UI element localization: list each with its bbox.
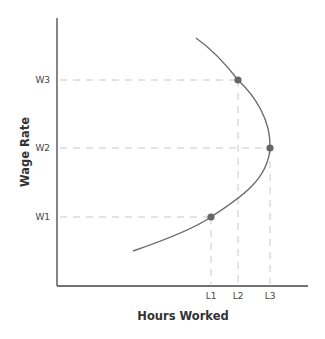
y-axis-title: Wage Rate [18, 117, 32, 187]
point-l1-w1 [207, 213, 214, 220]
x-tick-l1: L1 [206, 291, 217, 301]
y-tick-w3: W3 [35, 75, 50, 85]
point-l2-w3 [234, 76, 241, 83]
y-tick-w1: W1 [35, 212, 50, 222]
labor-supply-chart: W3 W2 W1 L1 L2 L3 Hours Worked Wage Rate [0, 0, 325, 339]
labor-supply-curve [133, 38, 270, 251]
x-axis-title: Hours Worked [137, 309, 228, 323]
guide-lines [60, 80, 270, 284]
y-tick-w2: W2 [35, 143, 50, 153]
x-tick-l3: L3 [265, 291, 276, 301]
x-tick-l2: L2 [233, 291, 244, 301]
point-l3-w2 [266, 144, 273, 151]
